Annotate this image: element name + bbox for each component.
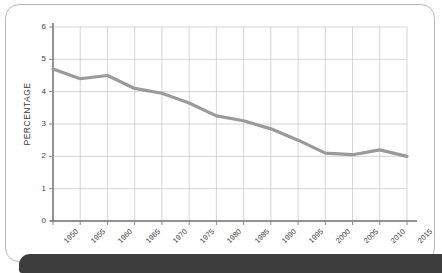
screenshot-root: PERCENTAGE 0123456 195019551960196519701… [0, 0, 442, 273]
data-series-line [53, 69, 407, 156]
chart-area: PERCENTAGE 0123456 195019551960196519701… [6, 5, 442, 273]
gridlines [53, 27, 407, 221]
bottom-bar [19, 254, 442, 273]
chart-card: PERCENTAGE 0123456 195019551960196519701… [5, 4, 435, 262]
line-plot [6, 5, 442, 273]
